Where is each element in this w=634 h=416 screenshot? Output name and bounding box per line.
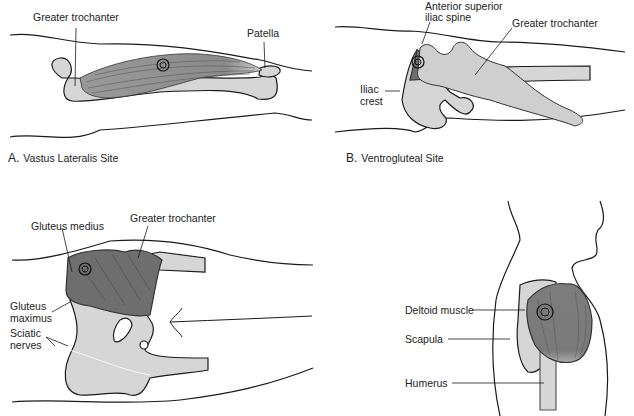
panel-a-thigh <box>10 28 312 138</box>
caption-b: B.Ventrogluteal Site <box>346 151 444 165</box>
label-gluteus-medius: Gluteus medius <box>31 220 104 232</box>
panel-b-hip <box>335 22 625 132</box>
label-asis-line2: iliac spine <box>425 11 471 23</box>
panel-c-dorsogluteal <box>12 226 313 402</box>
label-patella: Patella <box>247 27 279 39</box>
caption-a-letter: A. <box>8 151 19 165</box>
caption-a-text: Vastus Lateralis Site <box>23 152 118 164</box>
anatomy-illustrations <box>0 0 634 416</box>
label-greater-trochanter-b: Greater trochanter <box>512 17 598 29</box>
label-deltoid-muscle: Deltoid muscle <box>405 304 474 316</box>
label-greater-trochanter-c: Greater trochanter <box>130 212 216 224</box>
label-gmax-line1: Gluteus <box>10 300 46 312</box>
label-greater-trochanter-a: Greater trochanter <box>33 11 119 23</box>
label-gmax-line2: maximus <box>10 312 52 324</box>
label-sciatic-line2: nerves <box>10 339 42 351</box>
caption-a: A.Vastus Lateralis Site <box>8 151 118 165</box>
caption-b-letter: B. <box>346 151 357 165</box>
label-sciatic-line1: Sciatic <box>10 327 41 339</box>
label-iliac-line2: crest <box>360 95 383 107</box>
label-scapula: Scapula <box>405 333 443 345</box>
caption-b-text: Ventrogluteal Site <box>361 152 443 164</box>
label-humerus: Humerus <box>405 377 448 389</box>
label-iliac-line1: Iliac <box>360 83 379 95</box>
injection-sites-diagram: Greater trochanter Patella A.Vastus Late… <box>0 0 634 416</box>
